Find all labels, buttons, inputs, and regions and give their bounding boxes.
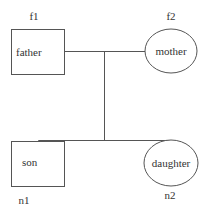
father-id: f1 — [29, 10, 38, 22]
mother-id: f2 — [166, 10, 175, 22]
son-label: son — [22, 156, 38, 168]
son-box — [12, 142, 65, 187]
node-father[interactable]: father f1 — [12, 10, 65, 75]
father-label: father — [16, 46, 42, 58]
node-daughter[interactable]: daughter n2 — [144, 140, 198, 201]
node-son[interactable]: son n1 — [12, 142, 65, 207]
mother-label: mother — [155, 45, 186, 57]
node-mother[interactable]: mother f2 — [145, 10, 197, 73]
son-id: n1 — [19, 194, 30, 206]
daughter-label: daughter — [152, 157, 191, 169]
family-tree-diagram: father f1 mother f2 son n1 daughter n2 — [0, 0, 208, 213]
daughter-id: n2 — [165, 189, 176, 201]
